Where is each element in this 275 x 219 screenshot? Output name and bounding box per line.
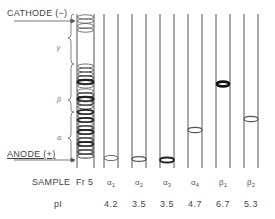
gamma-bracket-label: γ [56, 44, 60, 52]
pi-value-beta1: 6.7 [213, 199, 233, 209]
sample-sub: 1 [224, 182, 227, 188]
sample-row-label: SAMPLE [32, 177, 70, 187]
cathode-arrow [14, 19, 75, 23]
sample-tube-alpha3 [160, 14, 174, 168]
sample-label-alpha2: α2 [129, 178, 149, 188]
region-brackets [68, 14, 74, 162]
pi-row-label: pI [54, 199, 62, 209]
sample-tube-alpha2 [132, 14, 146, 168]
pi-value-alpha1: 4.2 [101, 199, 121, 209]
anode-label: ANODE (+) [7, 149, 55, 159]
pi-value-beta2: 5.3 [241, 199, 261, 209]
sample-label-alpha1: α1 [101, 178, 121, 188]
sample-label-beta1: β1 [213, 178, 233, 188]
beta-bracket-label: β [57, 96, 61, 104]
sample-label-alpha3: α3 [157, 178, 177, 188]
sample-tube-beta2 [244, 14, 258, 168]
reference-sample-label: Fr 5 [76, 177, 93, 187]
sample-label-alpha4: α4 [185, 178, 205, 188]
sample-sub: 2 [252, 182, 255, 188]
sample-label-beta2: β2 [241, 178, 261, 188]
reference-tube-fr5 [77, 14, 94, 168]
sample-tube-alpha1 [104, 14, 118, 168]
pi-value-alpha3: 3.5 [157, 199, 177, 209]
alpha-bracket-label: α [57, 134, 62, 142]
cathode-label: CATHODE (−) [7, 8, 67, 18]
sample-sub: 1 [112, 182, 115, 188]
pi-value-alpha4: 4.7 [185, 199, 205, 209]
sample-sub: 2 [140, 182, 143, 188]
sample-tube-beta1 [216, 14, 230, 168]
sample-sub: 3 [168, 182, 171, 188]
sample-tube-alpha4 [188, 14, 202, 168]
pi-value-alpha2: 3.5 [129, 199, 149, 209]
sample-sub: 4 [196, 182, 199, 188]
isoelectric-focusing-diagram: CATHODE (−) ANODE (+) γ β α SAMPLE pI Fr… [0, 0, 275, 219]
